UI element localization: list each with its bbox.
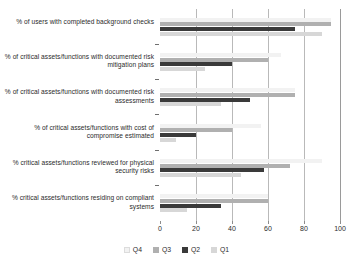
bar-q2[interactable] [160, 168, 264, 172]
value-tick-label: 60 [264, 225, 272, 232]
bar-q4[interactable] [160, 18, 331, 22]
bar-q4[interactable] [160, 194, 268, 198]
category-tick [155, 185, 159, 186]
bar-q2[interactable] [160, 27, 295, 31]
value-tick-label: 100 [334, 225, 346, 232]
axis-right-spine [340, 9, 341, 221]
category-tick [155, 44, 159, 45]
category-tick [155, 150, 159, 151]
legend-label: Q3 [162, 246, 171, 253]
category-label: % critical assets/functions reviewed for… [2, 159, 154, 176]
value-tick-80 [304, 221, 305, 224]
value-axis: 020406080100 [160, 221, 340, 235]
category-tick [155, 114, 159, 115]
legend-label: Q1 [220, 246, 229, 253]
value-tick-40 [232, 221, 233, 224]
bar-group [160, 9, 340, 44]
bar-q3[interactable] [160, 199, 268, 203]
value-tick-60 [268, 221, 269, 224]
category-axis-labels: % of users with completed background che… [2, 9, 154, 221]
bar-group [160, 186, 340, 221]
bar-q4[interactable] [160, 124, 261, 128]
bar-q4[interactable] [160, 88, 295, 92]
value-tick-label: 20 [192, 225, 200, 232]
bar-q3[interactable] [160, 93, 295, 97]
value-tick-label: 0 [158, 225, 162, 232]
value-tick-label: 40 [228, 225, 236, 232]
bar-q3[interactable] [160, 58, 268, 62]
bar-group [160, 150, 340, 185]
bar-q2[interactable] [160, 62, 232, 66]
bar-q2[interactable] [160, 133, 196, 137]
bar-q4[interactable] [160, 53, 281, 57]
legend-swatch-icon [124, 247, 130, 253]
value-tick-100 [340, 221, 341, 224]
bar-q1[interactable] [160, 208, 187, 212]
legend-swatch-icon [182, 247, 188, 253]
legend-label: Q2 [191, 246, 200, 253]
bar-group [160, 115, 340, 150]
value-tick-0 [160, 221, 161, 224]
category-tick [155, 79, 159, 80]
bar-q2[interactable] [160, 204, 221, 208]
chart-legend: Q4Q3Q2Q1 [0, 246, 353, 253]
bar-q4[interactable] [160, 159, 322, 163]
bar-group [160, 44, 340, 79]
bar-q1[interactable] [160, 138, 176, 142]
bar-chart: % of users with completed background che… [0, 0, 353, 268]
bar-q1[interactable] [160, 67, 205, 71]
bar-group [160, 80, 340, 115]
bar-q2[interactable] [160, 98, 250, 102]
category-label: % of critical assets/functions with docu… [2, 88, 154, 105]
category-label: % of users with completed background che… [2, 18, 154, 26]
legend-swatch-icon [153, 247, 159, 253]
value-tick-label: 80 [300, 225, 308, 232]
bar-q3[interactable] [160, 22, 331, 26]
legend-label: Q4 [133, 246, 142, 253]
value-tick-20 [196, 221, 197, 224]
legend-item-q4[interactable]: Q4 [124, 246, 142, 253]
bar-q1[interactable] [160, 102, 221, 106]
legend-swatch-icon [211, 247, 217, 253]
bar-q1[interactable] [160, 32, 322, 36]
category-label: % of critical assets/functions with docu… [2, 53, 154, 70]
legend-item-q3[interactable]: Q3 [153, 246, 171, 253]
legend-item-q2[interactable]: Q2 [182, 246, 200, 253]
bar-q1[interactable] [160, 173, 241, 177]
plot-area [160, 9, 340, 221]
category-label: % of critical assets/functions with cost… [2, 124, 154, 141]
category-label: % critical assets/functions residing on … [2, 194, 154, 211]
bar-q3[interactable] [160, 164, 290, 168]
legend-item-q1[interactable]: Q1 [211, 246, 229, 253]
chart-plot-wrapper: % of users with completed background che… [0, 0, 353, 268]
bar-q3[interactable] [160, 128, 232, 132]
